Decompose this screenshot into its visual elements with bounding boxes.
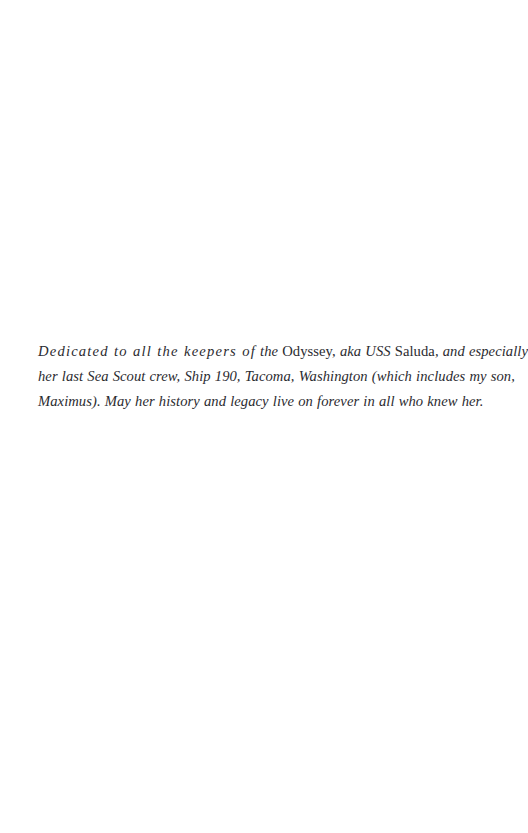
dedication-line1-lead: Dedicated to all the keepers of [38, 343, 256, 359]
dedication-line-3: Maximus). May her history and legacy liv… [38, 389, 458, 414]
dedication-line1-tail: , and especially [435, 343, 528, 359]
dedication-line-2: her last Sea Scout crew, Ship 190, Tacom… [38, 364, 458, 389]
ship-name-saluda: Saluda [395, 343, 435, 359]
dedication-text-block: Dedicated to all the keepers of the Odys… [38, 339, 458, 414]
dedication-line1-aka-uss: aka USS [340, 343, 391, 359]
dedication-line1-article: the [260, 343, 278, 359]
dedication-line-1: Dedicated to all the keepers of the Odys… [38, 339, 458, 364]
ship-name-odyssey: Odyssey, [282, 343, 336, 359]
